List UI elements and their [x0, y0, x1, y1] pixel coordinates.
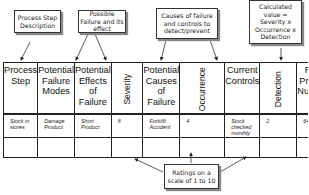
cell-empty — [38, 137, 75, 157]
cell-empty — [260, 137, 297, 157]
header-failure-modes: Potential Failure Modes — [38, 63, 75, 114]
cell-rpn: 64 — [297, 114, 308, 138]
header-occurrence: Occurrence — [180, 63, 225, 114]
cell-occurrence: 4 — [180, 114, 225, 138]
cell-empty — [4, 137, 38, 157]
header-process-step: Process Step — [4, 63, 38, 114]
cell-empty — [143, 137, 180, 157]
callout-causes: Causes of failure and controls to detect… — [156, 8, 218, 39]
table-row: Stock in stores Damage Product Short Pro… — [4, 114, 309, 138]
header-detection: Detection — [260, 63, 297, 114]
cell-severity: 8 — [111, 114, 143, 138]
header-severity: Severity — [111, 63, 143, 114]
callout-ratings: Ratings on a scale of 1 to 10 — [164, 164, 219, 189]
cell-empty — [74, 137, 111, 157]
cell-empty — [111, 137, 143, 157]
cell-effect: Short Product — [74, 114, 111, 138]
cell-empty — [180, 137, 225, 157]
header-rpn: Risk Priority Number — [297, 63, 308, 114]
header-causes: Potential Causes of Failure — [143, 63, 180, 114]
cell-empty — [225, 137, 260, 157]
table-row — [4, 137, 309, 157]
header-current-controls: Current Controls — [225, 63, 260, 114]
fmea-table: Process Step Potential Failure Modes Pot… — [3, 62, 308, 158]
header-effects: Potential Effects of Failure — [74, 63, 111, 114]
cell-detection: 2 — [260, 114, 297, 138]
header-row: Process Step Potential Failure Modes Pot… — [4, 63, 309, 114]
callout-process-step: Process Step Description — [14, 10, 61, 33]
cell-empty — [297, 137, 308, 157]
callout-rpn: Calculated value = Severity x Occurrence… — [249, 0, 302, 44]
cell-process-step: Stock in stores — [4, 114, 38, 138]
callout-failure: Possible Failure and its effect — [78, 10, 126, 33]
cell-failure-mode: Damage Product — [38, 114, 75, 138]
cell-cause: Forklift Accident — [143, 114, 180, 138]
cell-controls: Stock checked monthly — [225, 114, 260, 138]
